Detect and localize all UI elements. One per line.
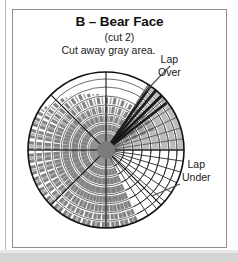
page-bottom-band bbox=[0, 253, 238, 262]
page-title: B – Bear Face bbox=[12, 14, 227, 30]
title-block: B – Bear Face (cut 2) Cut away gray area… bbox=[12, 14, 227, 57]
callout-lap-under-line1: Lap bbox=[182, 158, 211, 171]
center-hub bbox=[97, 141, 115, 159]
callout-lap-over-line1: Lap bbox=[158, 53, 181, 66]
callout-lap-under: Lap Under bbox=[182, 158, 211, 183]
cut-instruction: Cut away gray area. bbox=[12, 44, 227, 57]
cut-count-subtitle: (cut 2) bbox=[12, 31, 227, 44]
callout-lap-over: Lap Over bbox=[158, 53, 181, 78]
pattern-page: B – Bear Face (cut 2) Cut away gray area… bbox=[0, 0, 238, 262]
callout-lap-over-line2: Over bbox=[158, 66, 181, 79]
callout-lap-under-line2: Under bbox=[182, 171, 211, 184]
